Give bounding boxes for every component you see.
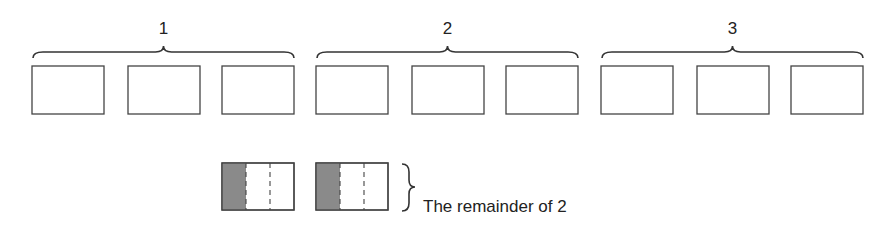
group-box: [412, 66, 484, 114]
brace-icon: [602, 46, 863, 58]
division-diagram: 123 The remainder of 2: [0, 0, 896, 234]
group-box: [697, 66, 769, 114]
brace-icon: [402, 164, 415, 211]
group-label: 3: [728, 19, 737, 38]
group-box: [316, 66, 388, 114]
group-3: 3: [601, 19, 863, 114]
group-box: [791, 66, 863, 114]
group-box: [506, 66, 578, 114]
shaded-part: [223, 164, 246, 210]
brace-icon: [317, 46, 578, 58]
group-label: 1: [159, 19, 168, 38]
group-box: [128, 66, 200, 114]
brace-icon: [33, 46, 294, 58]
shaded-part: [317, 164, 340, 210]
group-label: 2: [443, 19, 452, 38]
remainder-box: [222, 163, 294, 210]
remainder-label: The remainder of 2: [423, 197, 567, 216]
group-box: [601, 66, 673, 114]
group-2: 2: [316, 19, 578, 114]
group-1: 1: [32, 19, 294, 114]
group-box: [222, 66, 294, 114]
remainder-box: [316, 163, 388, 210]
group-box: [32, 66, 104, 114]
